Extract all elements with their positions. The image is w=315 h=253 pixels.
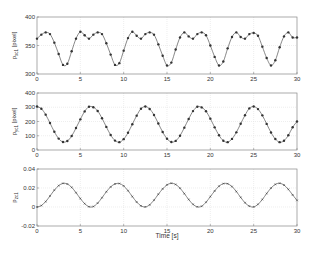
x-tick-label: 5	[79, 76, 83, 82]
subplot-2: 0510152025300100200300400pyc1 [pixel]	[11, 90, 301, 158]
x-tick-label: 10	[120, 76, 127, 82]
y-tick-label: 300	[25, 104, 36, 110]
x-tick-label: 15	[164, 152, 171, 158]
x-tick-label: 25	[250, 228, 257, 234]
x-tick-label: 0	[35, 152, 39, 158]
y-tick-label: -0.02	[21, 223, 35, 229]
x-tick-label: 30	[294, 228, 301, 234]
x-tick-label: 30	[294, 152, 301, 158]
y-tick-label: 200	[25, 119, 36, 125]
x-tick-label: 5	[79, 152, 83, 158]
y-axis-label: pyc1 [pixel]	[11, 107, 19, 135]
x-tick-label: 15	[164, 76, 171, 82]
x-tick-label: 20	[207, 76, 214, 82]
x-tick-label: 10	[120, 228, 127, 234]
x-tick-label: 25	[250, 76, 257, 82]
x-tick-label: 10	[120, 152, 127, 158]
x-tick-label: 30	[294, 76, 301, 82]
y-tick-label: 0.04	[23, 166, 35, 172]
y-axis-label: pxc1 [pixel]	[11, 31, 19, 59]
x-tick-label: 0	[35, 228, 39, 234]
grid-lines	[37, 93, 297, 150]
y-tick-label: 0.02	[23, 185, 35, 191]
y-tick-label: 400	[25, 14, 36, 20]
x-tick-label: 25	[250, 152, 257, 158]
x-tick-label: 20	[207, 228, 214, 234]
subplot-3: 051015202530-0.0200.020.04pzc1	[11, 166, 301, 234]
subplot-1: 051015202530300350400pxc1 [pixel]	[11, 14, 301, 82]
figure: 051015202530300350400pxc1 [pixel]0510152…	[0, 0, 315, 253]
chart-canvas: 051015202530300350400pxc1 [pixel]0510152…	[0, 0, 315, 253]
y-tick-label: 300	[25, 71, 36, 77]
x-tick-label: 5	[79, 228, 83, 234]
x-axis-label: Time [s]	[156, 232, 179, 240]
y-tick-label: 400	[25, 90, 36, 96]
y-axis-label: pzc1	[11, 192, 19, 203]
y-tick-label: 0	[32, 204, 36, 210]
x-tick-label: 20	[207, 152, 214, 158]
grid-lines	[37, 169, 297, 226]
y-tick-label: 100	[25, 133, 36, 139]
x-tick-label: 0	[35, 76, 39, 82]
y-tick-label: 350	[25, 43, 36, 49]
